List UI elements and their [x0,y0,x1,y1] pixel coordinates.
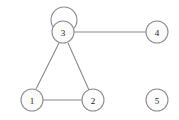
node-5-label: 5 [155,96,160,106]
graph-diagram: 1 2 3 4 5 [0,0,179,120]
node-3[interactable]: 3 [52,21,74,43]
node-2-label: 2 [91,96,96,106]
edge-node-2-node-3 [68,43,89,90]
node-1[interactable]: 1 [21,89,43,111]
graph-canvas: 1 2 3 4 5 [0,0,179,120]
node-4[interactable]: 4 [146,21,168,43]
node-5[interactable]: 5 [146,89,168,111]
node-4-label: 4 [155,28,160,38]
node-2[interactable]: 2 [82,89,104,111]
edge-node-1-node-3 [36,43,59,89]
node-1-label: 1 [30,96,35,106]
node-3-label: 3 [61,28,66,38]
